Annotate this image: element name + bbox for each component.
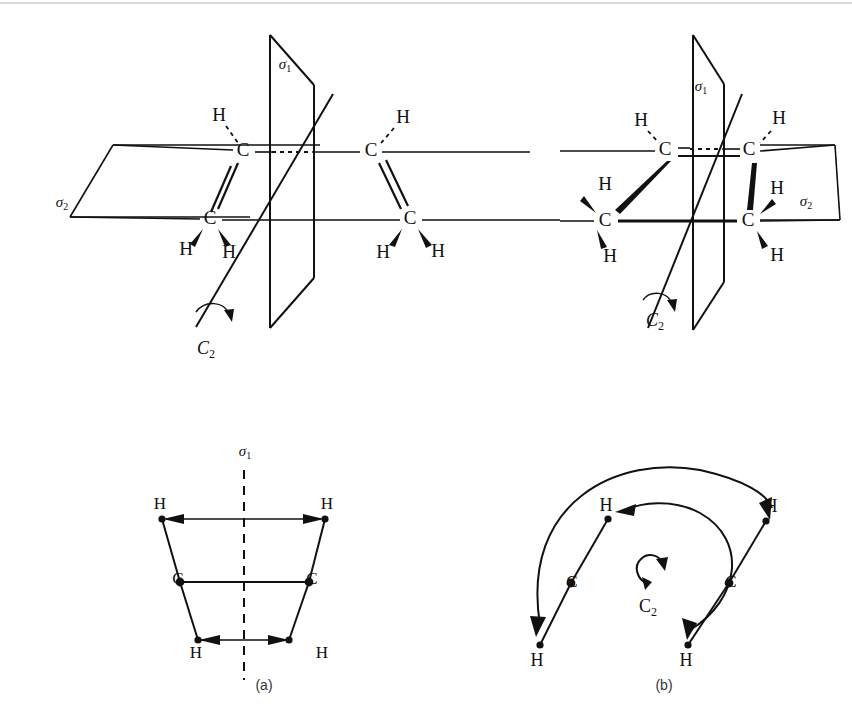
sigma1-bottom-edge [270, 278, 314, 328]
sigma2-left-edge [70, 145, 113, 217]
panel-sigma-reflection: σ1 H H C C H H (a) [154, 443, 333, 692]
atom-h-right-lower-cr: H [770, 244, 784, 265]
atom-c-upper-cl: C [659, 138, 672, 159]
atom-h-bottom-right-a: H [316, 643, 328, 662]
c2-label-left: C2 [197, 338, 215, 361]
dot-h-top-right-a [321, 515, 328, 522]
atom-c-lower-tl: C [204, 207, 217, 228]
c2-symbol-arrowhead-b [656, 557, 668, 571]
atom-c-left-b: C [566, 572, 577, 591]
reflection-arrowhead-top-left [163, 514, 184, 524]
reflection-arrowhead-bottom-left [199, 635, 220, 645]
atom-h-bottom-left-a: H [190, 643, 202, 662]
sigma1-label-a: σ1 [239, 443, 251, 461]
wedge-h-upper-cr [760, 199, 776, 214]
sigma1r-bottom-edge [693, 282, 724, 330]
atom-h-top-left-a: H [154, 494, 166, 513]
wedge-c-c-cis-left [615, 161, 671, 214]
dot-h-upper-left-b [604, 515, 611, 522]
panel-c2-rotation: C2 H H C C H H (b) [530, 467, 778, 692]
sigma1-label-right: σ1 [695, 78, 707, 96]
dot-h-lower-left-b [536, 641, 543, 648]
atom-c-upper-cr: C [743, 138, 756, 159]
atom-h-left-lower-cl: H [603, 245, 617, 266]
rotation-arc-outer-b [537, 467, 772, 625]
wedge-h-left-tr [389, 229, 402, 247]
atom-h-upper-tr: H [396, 106, 410, 127]
lower-plane-line-cis-right [760, 220, 840, 221]
double-bond-a-tl [218, 163, 238, 209]
wedge-h-lower-cr [757, 231, 768, 249]
skeleton-edge-lower-left-a [180, 582, 198, 640]
atom-h-lower-left-tr: H [376, 241, 390, 262]
upper-plane-line-cis-right [760, 145, 835, 151]
panel-cis-ethylene: σ2 σ1 C2 [560, 35, 840, 333]
dot-h-upper-right-b [762, 517, 769, 524]
c2-label-right: C2 [646, 310, 664, 333]
atom-h-upper-right-b: H [765, 496, 778, 516]
c2-rotation-arrowhead-left [224, 309, 234, 322]
reflection-arrowhead-top-right [303, 514, 324, 524]
bond-h-c-dashed-cl [648, 131, 659, 143]
bond-h-c-dashed-cr [760, 131, 771, 143]
dot-h-top-left-a [158, 515, 165, 522]
atom-c-right-b: C [725, 572, 736, 591]
figure-canvas: σ2 σ1 C2 [0, 0, 852, 705]
skeleton-edge-lower-right-a [289, 582, 309, 640]
chemistry-symmetry-figure: σ2 σ1 C2 [0, 0, 852, 705]
caption-b: (b) [655, 677, 672, 693]
wedge-h-upper-cl [580, 196, 596, 213]
atom-c-lower-cl: C [599, 209, 612, 230]
atom-c-upper-tl: C [237, 139, 250, 160]
dot-h-lower-right-b [684, 641, 691, 648]
atom-h-lower-right-tr: H [431, 240, 445, 261]
atom-c-upper-tr: C [365, 139, 378, 160]
skeleton-arm-lower-left-b [540, 583, 571, 645]
sigma2-label-right: σ2 [800, 193, 812, 211]
wedge-h-right-tr [418, 229, 432, 248]
atom-h-upper-cr: H [772, 107, 786, 128]
c2-axis-line-left [196, 94, 333, 327]
atom-h-lower-left-tl: H [179, 238, 193, 259]
c2-symbol-arrowtail-b [642, 577, 652, 590]
atom-c-lower-cr: C [742, 209, 755, 230]
c2-axis-line-right [648, 94, 742, 328]
atom-c-left-a: C [172, 569, 183, 588]
rotation-arrowhead-inner-start-b [682, 618, 697, 640]
atom-h-lower-right-tl: H [222, 241, 236, 262]
atom-h-upper-cl: H [634, 109, 648, 130]
dot-h-bottom-right-a [285, 636, 292, 643]
atom-c-lower-tr: C [404, 207, 417, 228]
sigma2-label-left: σ2 [56, 194, 68, 212]
rotation-arrowhead-outer-start-b [530, 616, 546, 637]
skeleton-arm-lower-right-b [688, 583, 729, 645]
atom-h-top-right-a: H [321, 494, 333, 513]
sigma2-right-edge [835, 145, 840, 220]
caption-a: (a) [255, 677, 272, 693]
atom-h-left-upper-cl: H [598, 173, 612, 194]
wedge-c-c-cis-right [747, 163, 757, 210]
bond-h-c-dashed-tr [381, 128, 394, 143]
atom-h-right-upper-cr: H [770, 177, 784, 198]
c2-rotation-arc-left [196, 304, 229, 314]
atom-c-right-a: C [306, 569, 317, 588]
sigma1r-top-edge [693, 35, 724, 84]
panel-trans-ethylene: σ2 σ1 C2 [56, 35, 560, 361]
sigma1-label-left: σ1 [279, 56, 291, 74]
rotation-arrowhead-inner-b [615, 504, 636, 516]
c2-label-b: C2 [639, 596, 657, 619]
sigma1-top-edge [270, 35, 314, 85]
c2-rotation-arrowhead-right [667, 299, 677, 312]
atom-h-lower-right-b: H [680, 650, 693, 670]
double-bond-b-tl [211, 166, 231, 212]
atom-h-lower-left-b: H [531, 650, 544, 670]
atom-h-upper-left-tl: H [212, 104, 226, 125]
atom-h-upper-left-b: H [600, 495, 613, 515]
sigma1-plane-left [270, 35, 314, 328]
